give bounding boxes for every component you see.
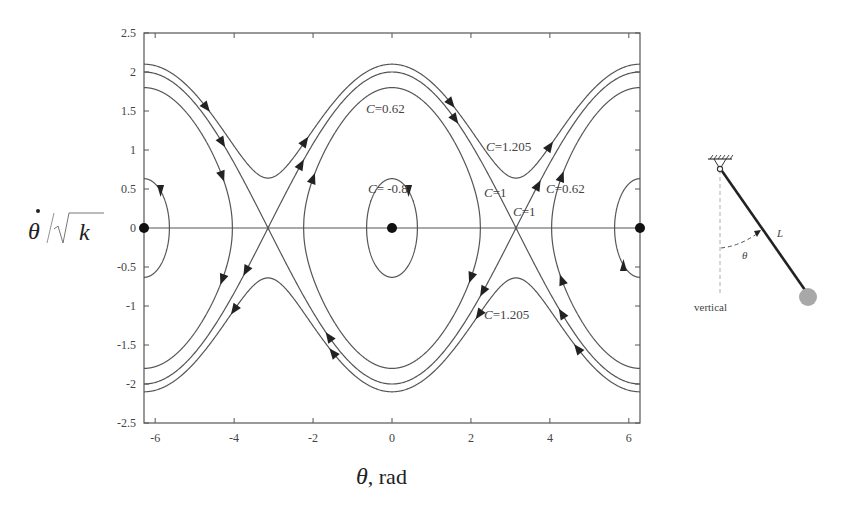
label-c1205-top: C=1.205	[486, 139, 531, 154]
direction-arrow-icon	[559, 274, 567, 286]
vertical-label: vertical	[694, 301, 727, 313]
pendulum-rod	[722, 171, 805, 290]
x-tick-label: 2	[468, 431, 474, 445]
phase-plot: -6-4-20246 2.521.510.50-0.5-1-1.5-2-2.5 …	[28, 26, 645, 489]
direction-arrow-icon	[469, 271, 477, 283]
direction-arrow-icon	[243, 264, 252, 276]
pivot-joint	[717, 166, 722, 171]
y-tick-label: 2	[130, 65, 136, 79]
trajectory-C-1	[144, 72, 640, 228]
phase-portrait-figure: -6-4-20246 2.521.510.50-0.5-1-1.5-2-2.5 …	[0, 0, 854, 514]
label-c1205-bottom: C=1.205	[484, 307, 529, 322]
y-title-k: k	[79, 219, 90, 245]
label-c1-right: C=1	[513, 204, 536, 219]
direction-arrow-icon	[326, 332, 336, 344]
y-tick-label: -0.5	[117, 260, 136, 274]
direction-arrow-icon	[531, 180, 540, 192]
y-tick-label: 0	[130, 221, 136, 235]
y-tick-label: 2.5	[121, 26, 136, 40]
y-tick-label: 1.5	[121, 104, 136, 118]
direction-arrow-icon	[559, 309, 569, 321]
pendulum-diagram: θ L vertical	[694, 155, 817, 313]
y-title-dot	[36, 209, 40, 213]
x-tick-label: 0	[389, 431, 395, 445]
direction-arrow-icon	[480, 285, 489, 297]
angle-arc	[721, 233, 758, 248]
label-cm08: C= -0.8	[368, 181, 408, 196]
label-c062-top: C=0.62	[366, 101, 405, 116]
angle-label: θ	[742, 249, 748, 261]
y-tick-label: -2	[126, 377, 136, 391]
direction-arrow-icon	[307, 173, 315, 185]
trajectory-C-1	[144, 228, 640, 384]
stable-equilibrium-point	[139, 223, 149, 233]
y-tick-label: -1.5	[117, 338, 136, 352]
y-tick-label: -2.5	[117, 416, 136, 430]
stable-equilibrium-point	[387, 223, 397, 233]
length-label: L	[776, 227, 783, 239]
x-tick-label: 4	[547, 431, 553, 445]
direction-arrow-icon	[448, 112, 458, 124]
trajectory-C-1-205	[144, 64, 640, 178]
x-axis-title: θ, rad	[356, 463, 407, 489]
direction-arrow-icon	[231, 303, 241, 315]
y-tick-label: 1	[130, 143, 136, 157]
pendulum-bob	[799, 288, 817, 306]
trajectory-C-1-205	[144, 278, 640, 392]
x-tick-label: -4	[229, 431, 239, 445]
direction-arrow-icon	[216, 136, 226, 148]
y-tick-label: -1	[126, 299, 136, 313]
label-c062-right: C=0.62	[546, 181, 585, 196]
x-tick-label: 6	[626, 431, 632, 445]
label-c1-left: C=1	[484, 185, 507, 200]
angle-arrowhead-icon	[754, 230, 761, 237]
x-axis-ticks: -6-4-20246	[150, 33, 632, 445]
y-tick-label: 0.5	[121, 182, 136, 196]
direction-arrow-icon	[216, 170, 224, 182]
y-title-theta: θ	[28, 218, 40, 244]
y-title-slash	[47, 213, 54, 243]
direction-arrow-icon	[295, 159, 304, 171]
stable-equilibrium-point	[635, 223, 645, 233]
x-tick-label: -2	[308, 431, 318, 445]
y-axis-title: θ k	[28, 209, 104, 245]
direction-arrow-icon	[543, 142, 553, 154]
x-tick-label: -6	[150, 431, 160, 445]
direction-arrow-icon	[298, 137, 308, 149]
direction-arrow-icon	[220, 273, 228, 285]
